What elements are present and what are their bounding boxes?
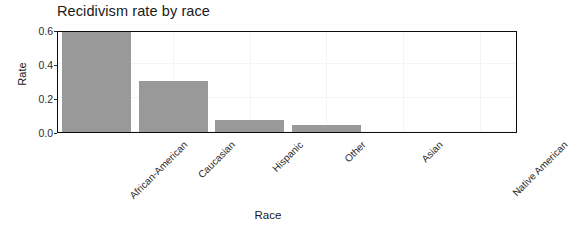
bar	[139, 81, 208, 132]
y-axis-tick-group: 0.00.20.40.6	[0, 31, 53, 133]
chart-title: Recidivism rate by race	[57, 3, 210, 19]
x-axis-title: Race	[0, 209, 536, 221]
y-axis-tick-label: 0.4	[7, 59, 53, 71]
x-axis-tick-label: Other	[343, 139, 368, 164]
gridline-vertical	[480, 32, 481, 132]
plot-area	[57, 31, 517, 133]
x-axis-tick-label: African-American	[128, 139, 190, 201]
y-axis-tick-label: 0.6	[7, 25, 53, 37]
bar	[62, 32, 131, 132]
x-axis-tick-label: Native American	[510, 139, 569, 198]
bar	[292, 125, 361, 132]
bar	[215, 120, 284, 132]
x-axis-tick-label: Caucasian	[196, 139, 237, 180]
gridline-vertical	[403, 32, 404, 132]
gridline-vertical	[326, 32, 327, 132]
y-axis-tick-label: 0.0	[7, 127, 53, 139]
x-axis-tick-label: Asian	[419, 139, 444, 164]
y-axis-tick-label: 0.2	[7, 93, 53, 105]
x-axis-tick-group: African-AmericanCaucasianHispanicOtherAs…	[57, 133, 517, 213]
gridline-vertical	[250, 32, 251, 132]
x-axis-tick-label: Hispanic	[270, 139, 305, 174]
